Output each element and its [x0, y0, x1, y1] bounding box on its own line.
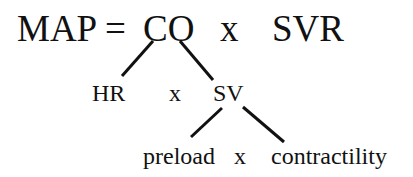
- hr-term: HR: [92, 81, 125, 105]
- sv-term: SV: [213, 81, 244, 105]
- connector-sv-contractility: [243, 107, 284, 142]
- connector-sv-preload: [191, 108, 222, 137]
- multiply-operator: x: [234, 144, 246, 168]
- contractility-term: contractility: [271, 144, 387, 168]
- multiply-operator: x: [169, 81, 181, 105]
- svr-term: SVR: [272, 10, 344, 47]
- multiply-operator: x: [220, 10, 239, 47]
- preload-term: preload: [143, 144, 215, 168]
- co-term: CO: [143, 10, 194, 47]
- map-equals-label: MAP =: [17, 10, 126, 47]
